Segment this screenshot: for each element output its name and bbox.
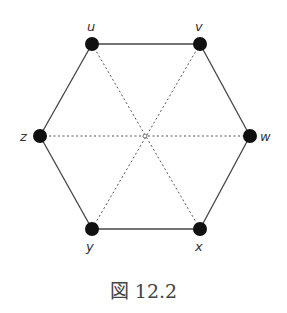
label-z: z — [19, 129, 28, 144]
edge-y-z — [40, 136, 92, 229]
label-x: x — [194, 239, 203, 254]
vertex-w — [243, 129, 257, 143]
vertex-u — [85, 37, 99, 51]
figure-caption: 図 12.2 — [0, 276, 287, 303]
label-y: y — [85, 239, 94, 254]
center-point — [143, 134, 147, 138]
vertex-y — [85, 222, 99, 236]
vertex-x — [193, 222, 207, 236]
vertex-z — [33, 129, 47, 143]
hexagon-graph: u v w x y z — [0, 0, 287, 313]
label-v: v — [195, 19, 203, 34]
vertex-v — [193, 37, 207, 51]
edge-v-w — [200, 44, 250, 136]
edge-w-x — [200, 136, 250, 229]
label-u: u — [87, 19, 95, 34]
edge-z-u — [40, 44, 92, 136]
label-w: w — [260, 129, 271, 144]
